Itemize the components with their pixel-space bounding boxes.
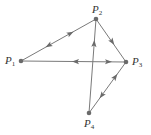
node-p4 — [87, 111, 92, 116]
arrow-toward-p3-diagonal-icon — [111, 72, 119, 81]
label-p2-letter: P — [92, 3, 99, 15]
arrow-toward-p4-icon — [98, 91, 106, 100]
label-p4-subscript: 4 — [91, 123, 95, 131]
label-p2-subscript: 2 — [99, 9, 103, 17]
edge-p4-p2 — [89, 19, 96, 113]
node-p3 — [124, 60, 129, 65]
arrow-toward-p1-icon — [44, 42, 53, 50]
edge-p1-p2 — [21, 19, 96, 61]
label-p1-letter: P — [5, 54, 12, 66]
label-p4-letter: P — [84, 117, 91, 129]
label-p1-subscript: 1 — [12, 60, 16, 68]
label-p3-subscript: 3 — [139, 61, 143, 69]
label-p2: P2 — [92, 4, 102, 17]
node-p2 — [94, 17, 99, 22]
label-p3: P3 — [132, 56, 142, 69]
edge-p3-p4 — [89, 62, 126, 113]
label-p1: P1 — [5, 55, 15, 68]
label-p4: P4 — [84, 118, 94, 131]
node-p1 — [19, 59, 24, 64]
arrow-toward-p2-icon — [66, 29, 75, 37]
directed-graph-diagram — [0, 0, 151, 135]
label-p3-letter: P — [132, 55, 139, 67]
